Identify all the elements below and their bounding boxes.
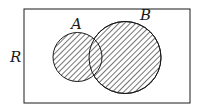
- set-a-label: A: [69, 15, 82, 33]
- set-b-label: B: [139, 6, 151, 24]
- venn-diagram: R A B: [0, 0, 198, 110]
- set-a-circle: [53, 33, 102, 82]
- universe-label: R: [9, 48, 21, 66]
